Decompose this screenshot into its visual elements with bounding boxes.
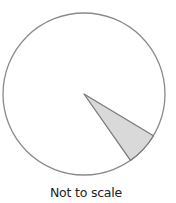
circle-graph <box>0 0 176 185</box>
caption-not-to-scale: Not to scale <box>0 185 172 200</box>
